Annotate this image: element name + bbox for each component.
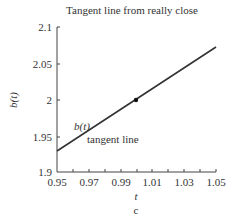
x-tick-label: 0.95 [47, 176, 67, 188]
y-tick-label: 1.95 [33, 131, 53, 143]
x-tick-label: 1.05 [206, 176, 226, 188]
x-tick-label: 1.03 [174, 176, 194, 188]
x-tick-labels: 0.95 0.97 0.99 1.01 1.03 1.05 [47, 176, 226, 188]
x-tick-label: 0.99 [111, 176, 131, 188]
x-axis-label: t [134, 190, 138, 202]
y-tick-labels: 2.1 2.05 2 1.95 1.9 [33, 21, 53, 178]
tangent-annotation: tangent line [87, 133, 139, 145]
y-tick-label: 2 [47, 94, 53, 106]
y-axis-label: b(t) [7, 92, 20, 108]
chart-title: Tangent line from really close [66, 4, 198, 16]
y-tick-label: 2.1 [38, 21, 52, 33]
tangency-point [134, 98, 138, 102]
caption-label: c [134, 204, 139, 216]
x-tick-label: 1.01 [142, 176, 161, 188]
curve-annotation: b(t) [74, 120, 90, 133]
x-tick-label: 0.97 [79, 176, 99, 188]
y-tick-label: 2.05 [33, 58, 53, 70]
chart: Tangent line from really close 2.1 2.05 … [0, 0, 235, 220]
